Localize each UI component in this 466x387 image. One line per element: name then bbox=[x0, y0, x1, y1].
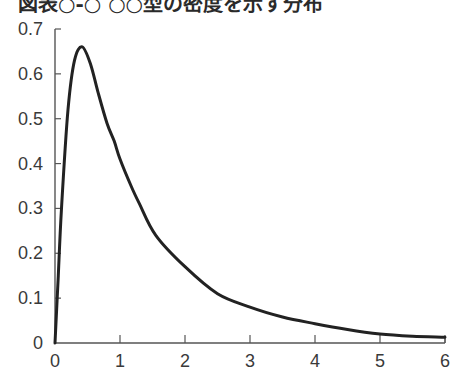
x-tick-label: 1 bbox=[115, 351, 125, 371]
x-tick-label: 6 bbox=[440, 351, 450, 371]
x-tick-label: 5 bbox=[375, 351, 385, 371]
tick-labels: 00.10.20.30.40.50.60.70123456 bbox=[18, 19, 450, 371]
x-tick-label: 0 bbox=[50, 351, 60, 371]
x-tick-label: 2 bbox=[180, 351, 190, 371]
line-chart: 00.10.20.30.40.50.60.70123456 bbox=[0, 0, 466, 387]
y-tick-label: 0 bbox=[33, 333, 43, 353]
x-tick-label: 4 bbox=[310, 351, 320, 371]
y-tick-label: 0.5 bbox=[18, 109, 43, 129]
y-tick-label: 0.6 bbox=[18, 64, 43, 84]
y-tick-label: 0.3 bbox=[18, 198, 43, 218]
y-tick-label: 0.1 bbox=[18, 288, 43, 308]
x-tick-label: 3 bbox=[245, 351, 255, 371]
y-tick-label: 0.2 bbox=[18, 243, 43, 263]
axes bbox=[55, 29, 445, 343]
y-tick-label: 0.4 bbox=[18, 154, 43, 174]
ticks bbox=[55, 29, 445, 343]
y-tick-label: 0.7 bbox=[18, 19, 43, 39]
density-curve bbox=[55, 47, 445, 343]
